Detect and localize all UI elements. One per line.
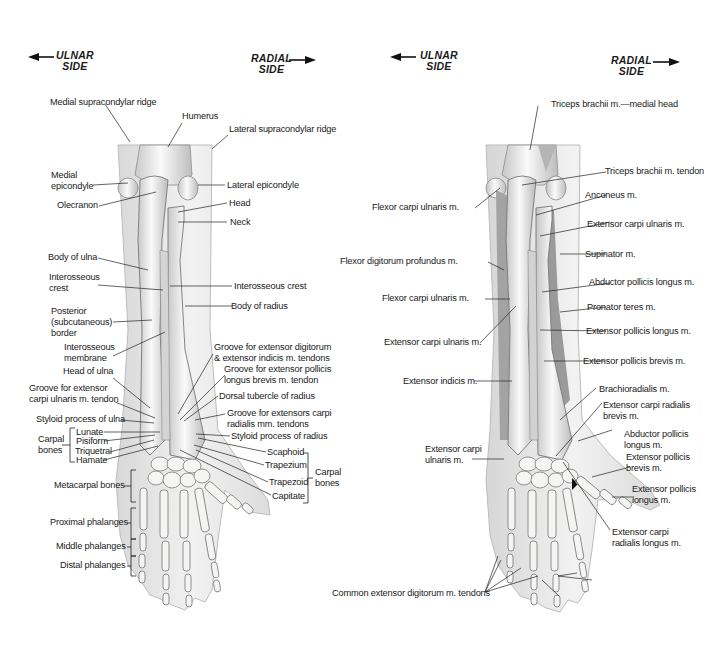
label-head-of-ulna: Head of ulna [63, 366, 113, 377]
label-flexor-carpi-ulnaris-upper: Flexor carpi ulnaris m. [372, 202, 459, 213]
label-capitate: Capitate [272, 491, 305, 502]
label-posterior-border: Posterior(subcutaneous)border [51, 306, 112, 339]
label-trapezium: Trapezium [265, 460, 307, 471]
label-extensor-carpi-ulnaris-lower: Extensor carpiulnaris m. [425, 444, 482, 466]
label-common-extensor-digitorum-tendons: Common extensor digitorum m. tendons [332, 588, 490, 599]
label-head: Head [229, 198, 250, 209]
label-abductor-pollicis-longus-upper: Abductor pollicis longus m. [589, 277, 694, 288]
ulnar-side-label: ULNARSIDE [56, 50, 94, 72]
label-anconeus: Anconeus m. [585, 190, 637, 201]
muscles-panel: ULNARSIDE RADIALSIDE Triceps brachii m.—… [360, 0, 725, 648]
label-pronator-teres: Pronator teres m. [587, 302, 655, 313]
radial-side-label: RADIALSIDE [251, 53, 292, 75]
label-dorsal-tubercle: Dorsal tubercle of radius [219, 391, 315, 402]
label-groove-extensor-pollicis: Groove for extensor pollicislongus brevi… [224, 364, 331, 386]
label-extensor-pollicis-brevis-lower: Extensor pollicisbrevis m. [626, 452, 690, 474]
label-extensor-indicis: Extensor indicis m. [403, 376, 477, 387]
label-extensor-carpi-ulnaris-mid: Extensor carpi ulnaris m. [384, 337, 481, 348]
label-carpal-bones-left: Carpalbones [38, 434, 64, 456]
label-middle-phalanges: Middle phalanges [56, 541, 126, 552]
label-extensor-carpi-radialis-longus: Extensor carpiradialis longus m. [612, 527, 681, 549]
label-extensor-carpi-ulnaris-upper: Extensor carpi ulnaris m. [587, 219, 684, 230]
label-scaphoid: Scaphoid [267, 447, 304, 458]
radial-side-label: RADIALSIDE [611, 55, 652, 77]
label-flexor-digitorum-profundus: Flexor digitorum profundus m. [340, 256, 458, 267]
label-humerus: Humerus [182, 111, 218, 122]
radial-side-arrow [289, 56, 316, 64]
label-olecranon: Olecranon [57, 200, 98, 211]
label-neck: Neck [230, 217, 250, 228]
label-extensor-pollicis-brevis-upper: Extensor pollicis brevis m. [583, 356, 685, 367]
label-metacarpal-bones: Metacarpal bones [54, 480, 125, 491]
label-triceps-medial-head: Triceps brachii m.—medial head [551, 99, 678, 110]
label-styloid-process-ulna: Styloid process of ulna [36, 414, 125, 425]
label-supinator: Supinator m. [585, 249, 635, 260]
label-brachioradialis: Brachioradialis m. [599, 384, 669, 395]
label-trapezoid: Trapezoid [269, 477, 308, 488]
label-extensor-pollicis-longus-lower: Extensor pollicislongus m. [632, 484, 696, 506]
label-body-of-ulna: Body of ulna [48, 252, 97, 263]
label-medial-epicondyle: Medialepicondyle [51, 170, 93, 192]
label-interosseous-crest-right: Interosseous crest [234, 281, 306, 292]
label-groove-ecu: Groove for extensorcarpi ulnaris m. tend… [29, 383, 119, 405]
label-styloid-process-radius: Styloid process of radius [231, 431, 327, 442]
ulnar-side-arrow [28, 53, 54, 61]
label-lateral-epicondyle: Lateral epicondyle [227, 180, 299, 191]
label-flexor-carpi-ulnaris-lower: Flexor carpi ulnaris m. [382, 293, 469, 304]
label-body-of-radius: Body of radius [231, 301, 288, 312]
label-interosseous-crest-left: Interosseouscrest [49, 272, 100, 294]
ulnar-side-label: ULNARSIDE [420, 50, 458, 72]
label-distal-phalanges: Distal phalanges [60, 560, 126, 571]
label-triceps-tendon: Triceps brachii m. tendon [605, 166, 704, 177]
label-interosseous-membrane: Interosseousmembrane [64, 342, 115, 364]
forearm-muscles-illustration [360, 0, 725, 648]
label-extensor-pollicis-longus-upper: Extensor pollicis longus m. [586, 326, 691, 337]
bones-panel: ULNARSIDE RADIALSIDE Medial supracondyla… [0, 0, 360, 648]
label-groove-extensors-carpi-radialis: Groove for extensors carpiradialis mm. t… [227, 408, 331, 430]
label-lateral-supracondylar-ridge: Lateral supracondylar ridge [229, 124, 336, 135]
label-groove-extensor-digitorum: Groove for extensor digitorum& extensor … [214, 342, 331, 364]
label-hamate: Hamate [76, 455, 107, 466]
label-extensor-carpi-radialis-brevis: Extensor carpi radialisbrevis m. [603, 400, 690, 422]
label-proximal-phalanges: Proximal phalanges [50, 517, 128, 528]
label-carpal-bones-right: Carpalbones [315, 467, 341, 489]
label-abductor-pollicis-longus-lower: Abductor pollicislongus m. [624, 429, 688, 451]
label-medial-supracondylar-ridge: Medial supracondylar ridge [50, 97, 156, 108]
